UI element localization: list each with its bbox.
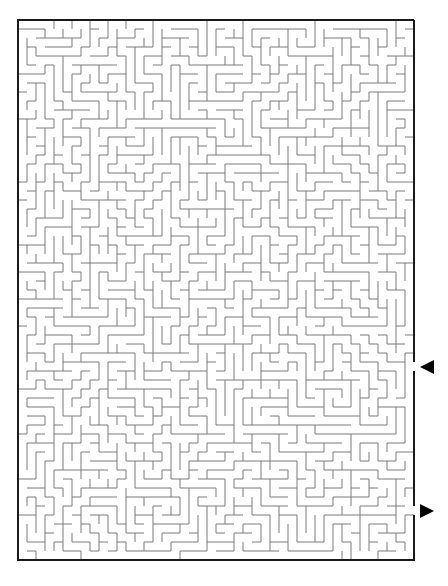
maze-walls <box>18 20 414 560</box>
arrow-left-icon <box>420 360 434 374</box>
maze-board[interactable] <box>0 0 448 586</box>
arrow-right-icon <box>420 504 434 518</box>
maze-grid[interactable] <box>0 0 448 586</box>
